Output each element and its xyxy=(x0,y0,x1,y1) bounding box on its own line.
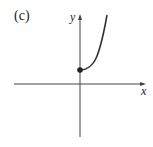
y-axis-arrow-icon xyxy=(78,14,82,20)
closed-endpoint xyxy=(77,67,83,73)
x-axis-arrow-icon xyxy=(140,82,146,86)
graph xyxy=(0,0,153,147)
function-curve xyxy=(80,15,107,70)
